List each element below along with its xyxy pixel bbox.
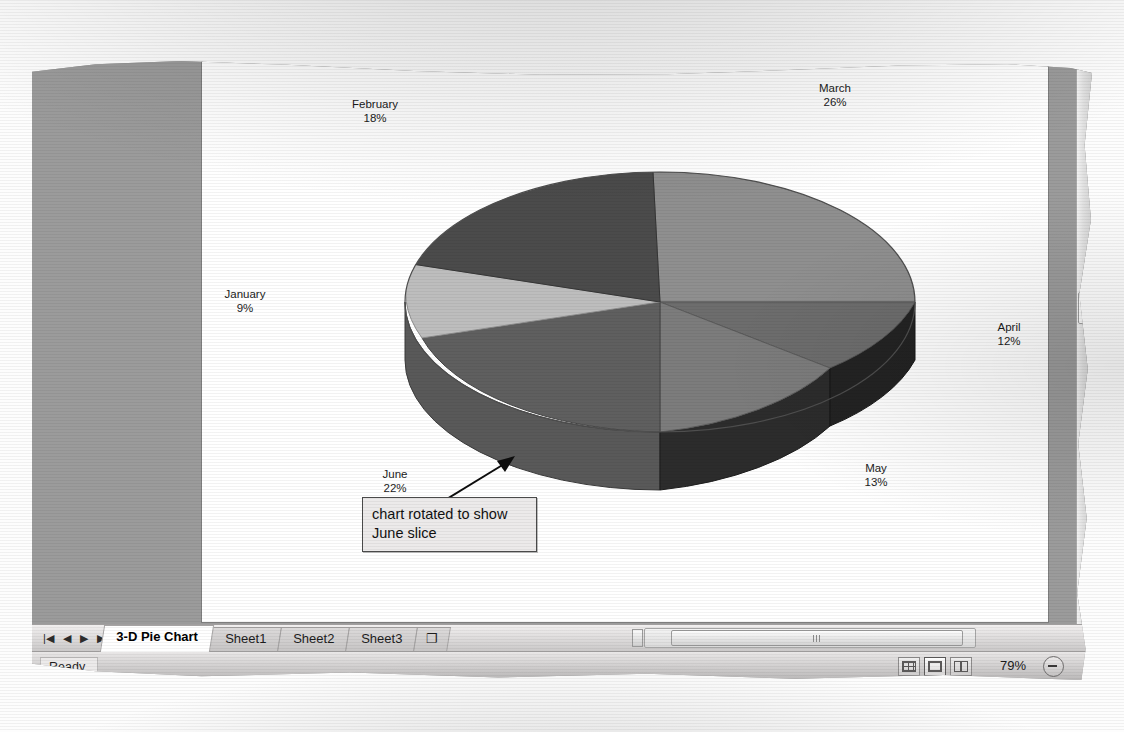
data-label-march-name: March bbox=[780, 82, 890, 96]
pie-chart-graphic[interactable] bbox=[400, 112, 920, 512]
insert-worksheet-tab[interactable]: ❐ bbox=[413, 627, 451, 652]
insert-worksheet-icon: ❐ bbox=[426, 631, 438, 646]
horizontal-scrollbar[interactable] bbox=[644, 628, 976, 648]
view-mode-buttons bbox=[898, 657, 972, 676]
normal-view-button[interactable] bbox=[898, 657, 920, 676]
page-layout-view-button[interactable] bbox=[924, 657, 946, 676]
worksheet-workspace: Semiannual Financial Projections bbox=[32, 58, 1092, 624]
data-label-february: February 18% bbox=[320, 98, 430, 125]
sheet-tab-label: Sheet2 bbox=[293, 631, 334, 646]
next-sheet-icon[interactable]: ▶ bbox=[80, 633, 88, 644]
sheet-tab-sheet3[interactable]: Sheet3 bbox=[345, 627, 418, 652]
slice-march bbox=[653, 172, 915, 302]
book-page-photo: Semiannual Financial Projections bbox=[0, 0, 1124, 732]
scrollbar-grip-icon bbox=[813, 635, 822, 642]
zoom-level-label[interactable]: 79% bbox=[1000, 657, 1026, 675]
data-label-february-name: February bbox=[320, 98, 430, 112]
page-break-preview-button[interactable] bbox=[950, 657, 972, 676]
excel-window: Semiannual Financial Projections bbox=[32, 58, 1092, 680]
annotation-callout: chart rotated to show June slice bbox=[362, 497, 537, 552]
sheet-tabs: 3-D Pie Chart Sheet1 Sheet2 Sheet3 ❐ bbox=[102, 627, 448, 652]
printed-sheet-page: Semiannual Financial Projections bbox=[202, 58, 1048, 622]
data-label-february-value: 18% bbox=[320, 112, 430, 126]
pie-chart-svg bbox=[400, 112, 920, 512]
zoom-out-button[interactable] bbox=[1043, 656, 1064, 677]
tab-split-handle[interactable] bbox=[632, 629, 643, 647]
prev-sheet-icon[interactable]: ◀ bbox=[63, 633, 71, 644]
data-label-may-value: 13% bbox=[831, 476, 921, 490]
data-label-march-value: 26% bbox=[780, 96, 890, 110]
horizontal-scrollbar-thumb[interactable] bbox=[671, 630, 963, 646]
sheet-tab-3d-pie-chart[interactable]: 3-D Pie Chart bbox=[100, 625, 214, 652]
first-sheet-icon[interactable]: |◀ bbox=[43, 633, 54, 644]
data-label-may-name: May bbox=[831, 462, 921, 476]
data-label-april: April 12% bbox=[964, 321, 1054, 348]
sheet-tab-sheet2[interactable]: Sheet2 bbox=[277, 627, 350, 652]
data-label-march: March 26% bbox=[780, 82, 890, 109]
sheet-tab-bar: |◀ ◀ ▶ ▶| 3-D Pie Chart Sheet1 Sheet2 Sh… bbox=[32, 624, 1092, 652]
data-label-april-name: April bbox=[964, 321, 1054, 335]
sheet-tab-label: 3-D Pie Chart bbox=[116, 629, 198, 644]
sheet-tab-sheet1[interactable]: Sheet1 bbox=[209, 627, 282, 652]
data-label-may: May 13% bbox=[831, 462, 921, 489]
sheet-tab-label: Sheet1 bbox=[225, 631, 266, 646]
data-label-january-value: 9% bbox=[200, 302, 290, 316]
data-label-january-name: January bbox=[200, 288, 290, 302]
data-label-april-value: 12% bbox=[964, 335, 1054, 349]
sheet-tab-label: Sheet3 bbox=[361, 631, 402, 646]
data-label-january: January 9% bbox=[200, 288, 290, 315]
